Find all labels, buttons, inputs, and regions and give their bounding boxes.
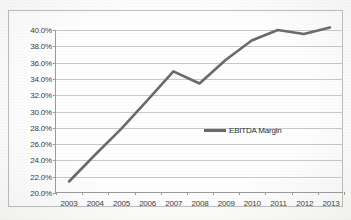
y-axis-tick-label: 22.0%: [30, 172, 52, 181]
y-axis-tick-label: 26.0%: [30, 140, 52, 149]
x-axis-tick-label: 2006: [139, 199, 156, 208]
x-axis-tick-mark: [161, 192, 162, 195]
scanned-page-background: 20.0%22.0%24.0%26.0%28.0%30.0%32.0%34.0%…: [0, 0, 351, 220]
x-axis-tick-label: 2009: [218, 199, 235, 208]
x-axis-tick-mark: [187, 192, 188, 195]
y-axis-tick-label: 28.0%: [30, 123, 52, 132]
y-axis-tick-label: 34.0%: [30, 74, 52, 83]
y-axis-tick-label: 38.0%: [30, 42, 52, 51]
y-axis-tick-label: 24.0%: [30, 156, 52, 165]
x-axis-tick-mark: [108, 192, 109, 195]
y-axis-tick-label: 30.0%: [30, 107, 52, 116]
x-axis-tick-label: 2013: [322, 199, 339, 208]
plot-area: 20.0%22.0%24.0%26.0%28.0%30.0%32.0%34.0%…: [55, 30, 343, 193]
x-axis-tick-label: 2007: [165, 199, 182, 208]
x-axis-tick-label: 2008: [192, 199, 209, 208]
chart-legend: EBITDA Margin: [204, 126, 282, 135]
legend-line-swatch: [204, 129, 226, 132]
chart-frame: 20.0%22.0%24.0%26.0%28.0%30.0%32.0%34.0%…: [8, 10, 343, 207]
y-axis-tick-label: 20.0%: [30, 189, 52, 198]
x-axis-tick-label: 2003: [61, 199, 78, 208]
x-axis-tick-mark: [213, 192, 214, 195]
x-axis-tick-mark: [82, 192, 83, 195]
x-axis-tick-mark: [239, 192, 240, 195]
x-axis-tick-mark: [344, 192, 345, 195]
x-axis-tick-mark: [135, 192, 136, 195]
x-axis-tick-mark: [265, 192, 266, 195]
x-axis-tick-mark: [56, 192, 57, 195]
x-axis-tick-label: 2012: [296, 199, 313, 208]
x-axis-tick-mark: [318, 192, 319, 195]
legend-label-ebitda-margin: EBITDA Margin: [229, 126, 282, 135]
x-axis-tick-mark: [292, 192, 293, 195]
x-axis-tick-label: 2005: [113, 199, 130, 208]
y-axis-tick-label: 40.0%: [30, 26, 52, 35]
series-line-ebitda-margin: [56, 30, 343, 192]
y-axis-tick-label: 32.0%: [30, 91, 52, 100]
x-axis-tick-label: 2004: [87, 199, 104, 208]
y-axis-tick-label: 36.0%: [30, 58, 52, 67]
x-axis-tick-label: 2011: [270, 199, 286, 208]
x-axis-tick-label: 2010: [244, 199, 261, 208]
